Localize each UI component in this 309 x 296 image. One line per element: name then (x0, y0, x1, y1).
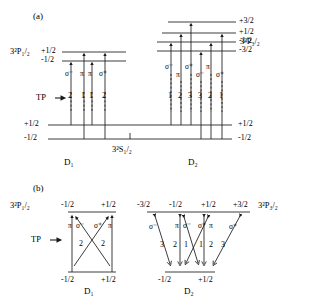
term-label-3p32-b: 3²P₃/₂ (258, 201, 278, 210)
strength-d2-4: 3 (198, 92, 202, 100)
pol-d1-4: σ⁺ (99, 70, 107, 78)
pol-d2-lower-2: σ⁻ (196, 71, 204, 79)
panel-tag-b: (b) (33, 184, 44, 193)
d2-upper-sublevel-plus-1-2: +1/2 (239, 28, 254, 36)
b-d2-upper-plus-1-2: +1/2 (201, 201, 216, 209)
b-d2-lower-plus-half: +1/2 (198, 276, 213, 284)
term-label-3p12-b: 3²P₁/₂ (10, 201, 30, 210)
pump-label-a: TP (36, 93, 46, 102)
term-label-3p12-a: 3²P₁/₂ (10, 47, 30, 56)
pol-d2-lower-3: σ⁺ (216, 71, 224, 79)
ground-right-minus-half: -1/2 (238, 134, 251, 142)
b-d2-upper-minus-1-2: -1/2 (169, 201, 182, 209)
d2-upper-sublevel-minus-1-2: -1/2 (239, 37, 252, 45)
figure-root: (a) 3²P₁/₂ +1/2 -1/2 3²P₃/₂ +3/2 +1/2 -1… (0, 0, 309, 296)
ground-left-plus-half: +1/2 (24, 120, 39, 128)
b-strength-d1-1: 2 (79, 240, 83, 248)
ground-term-label: 3²S₁/₂ (112, 145, 132, 154)
pol-d2-upper-3: π (206, 63, 210, 71)
pol-d1-3: π (88, 70, 92, 78)
b-pol-d2-4: σ⁺ (198, 222, 206, 230)
strength-d1-3: 1 (89, 92, 93, 100)
strength-d1-1: 2 (68, 92, 72, 100)
b-d1-lower-minus-half: -1/2 (61, 276, 74, 284)
d1-upper-sublevel-minus-half: -1/2 (41, 56, 54, 64)
b-pol-d2-5: π (209, 222, 213, 230)
d2-upper-sublevel-minus-3-2: -3/2 (239, 46, 252, 54)
ground-right-plus-half: +1/2 (238, 120, 253, 128)
d2-branch-label-b: D₂ (184, 287, 194, 296)
pump-label-b: TP (31, 235, 41, 244)
b-pol-d2-6: σ⁺ (229, 223, 237, 231)
pol-d1-2: π (80, 70, 84, 78)
ground-left-minus-half: -1/2 (24, 134, 37, 142)
b-strength-d1-2: 2 (101, 240, 105, 248)
b-pol-d1-4: π (108, 222, 112, 230)
b-d1-upper-plus-half: +1/2 (101, 201, 116, 209)
b-pol-d1-3: σ⁺ (94, 222, 102, 230)
d1-branch-label-a: D₁ (64, 158, 74, 167)
b-pol-d1-2: σ⁻ (76, 222, 84, 230)
d1-branch-label-b: D₁ (84, 287, 94, 296)
b-strength-d2-5: 2 (209, 241, 213, 249)
pol-d2-upper-2: σ⁺ (185, 63, 193, 71)
strength-d2-2: 2 (178, 92, 182, 100)
b-strength-d2-1: 3 (160, 241, 164, 249)
panel-tag-a: (a) (33, 12, 43, 21)
b-d2-lower-minus-half: -1/2 (158, 276, 171, 284)
d1-upper-sublevel-plus-half: +1/2 (41, 47, 56, 55)
strength-d2-3: 3 (188, 92, 192, 100)
d2-branch-label-a: D₂ (188, 158, 198, 167)
b-strength-d2-3: 1 (184, 241, 188, 249)
b-strength-d2-4: 1 (199, 241, 203, 249)
b-pol-d2-1: σ⁻ (149, 223, 157, 231)
pol-d2-upper-1: σ⁻ (165, 63, 173, 71)
pol-d2-lower-1: π (176, 71, 180, 79)
b-d2-upper-plus-3-2: +3/2 (233, 201, 248, 209)
b-pol-d2-3: σ⁻ (183, 222, 191, 230)
strength-d1-2: 1 (81, 92, 85, 100)
b-d2-upper-minus-3-2: -3/2 (137, 201, 150, 209)
diagram-vectors (0, 0, 309, 296)
pol-d1-1: σ⁻ (65, 70, 73, 78)
b-d1-upper-minus-half: -1/2 (61, 201, 74, 209)
b-strength-d2-2: 2 (173, 241, 177, 249)
b-d1-lower-plus-half: +1/2 (101, 276, 116, 284)
b-pol-d2-2: π (175, 222, 179, 230)
strength-d2-5: 2 (208, 92, 212, 100)
strength-d2-1: 1 (168, 92, 172, 100)
d2-upper-sublevel-plus-3-2: +3/2 (239, 17, 254, 25)
strength-d2-6: 1 (219, 92, 223, 100)
b-strength-d2-6: 3 (221, 241, 225, 249)
b-pol-d1-1: π (68, 222, 72, 230)
strength-d1-4: 2 (102, 92, 106, 100)
